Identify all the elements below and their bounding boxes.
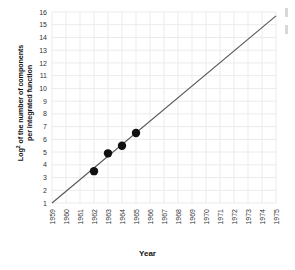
- x-tick-label: 1965: [133, 209, 140, 225]
- x-tick-label: 1968: [175, 209, 182, 225]
- data-point-marker: [104, 149, 112, 157]
- y-tick-label: 8: [43, 110, 47, 117]
- data-point-marker: [118, 142, 126, 150]
- y-tick-label: 16: [39, 9, 47, 16]
- x-tick-label: 1972: [231, 209, 238, 225]
- x-tick-label: 1962: [91, 209, 98, 225]
- x-tick-label: 1966: [147, 209, 154, 225]
- x-tick-label: 1960: [63, 209, 70, 225]
- x-tick-label: 1963: [105, 209, 112, 225]
- x-tick-label: 1967: [161, 209, 168, 225]
- data-point-marker: [132, 129, 140, 137]
- x-tick-label: 1970: [203, 209, 210, 225]
- y-tick-label: 7: [43, 123, 47, 130]
- x-tick-label: 1959: [49, 209, 56, 225]
- data-point-marker: [90, 167, 98, 175]
- y-axis-ticks: 12345678910111213141516: [39, 9, 47, 207]
- plot-area: 12345678910111213141516 1959196019611962…: [0, 0, 295, 270]
- x-axis-label: Year: [0, 249, 295, 258]
- y-tick-label: 12: [39, 60, 47, 67]
- x-tick-label: 1971: [217, 209, 224, 225]
- cropped-edge-marks: [285, 8, 294, 48]
- x-tick-label: 1964: [119, 209, 126, 225]
- x-tick-label: 1974: [259, 209, 266, 225]
- y-tick-label: 9: [43, 98, 47, 105]
- y-tick-label: 13: [39, 47, 47, 54]
- x-tick-label: 1969: [189, 209, 196, 225]
- y-tick-label: 1: [43, 200, 47, 207]
- y-tick-label: 15: [39, 21, 47, 28]
- y-tick-label: 10: [39, 85, 47, 92]
- y-tick-label: 11: [40, 72, 47, 79]
- y-tick-label: 2: [43, 187, 47, 194]
- x-tick-label: 1975: [273, 209, 280, 225]
- chart-figure: Log2 of the number of components per int…: [0, 0, 295, 270]
- x-tick-label: 1961: [77, 209, 84, 225]
- y-tick-label: 5: [43, 149, 47, 156]
- y-tick-label: 6: [43, 136, 47, 143]
- y-tick-label: 4: [43, 161, 47, 168]
- x-axis-ticks: 1959196019611962196319641965196619671968…: [49, 209, 280, 225]
- x-tick-label: 1973: [245, 209, 252, 225]
- y-tick-label: 14: [39, 34, 47, 41]
- y-tick-label: 3: [43, 174, 47, 181]
